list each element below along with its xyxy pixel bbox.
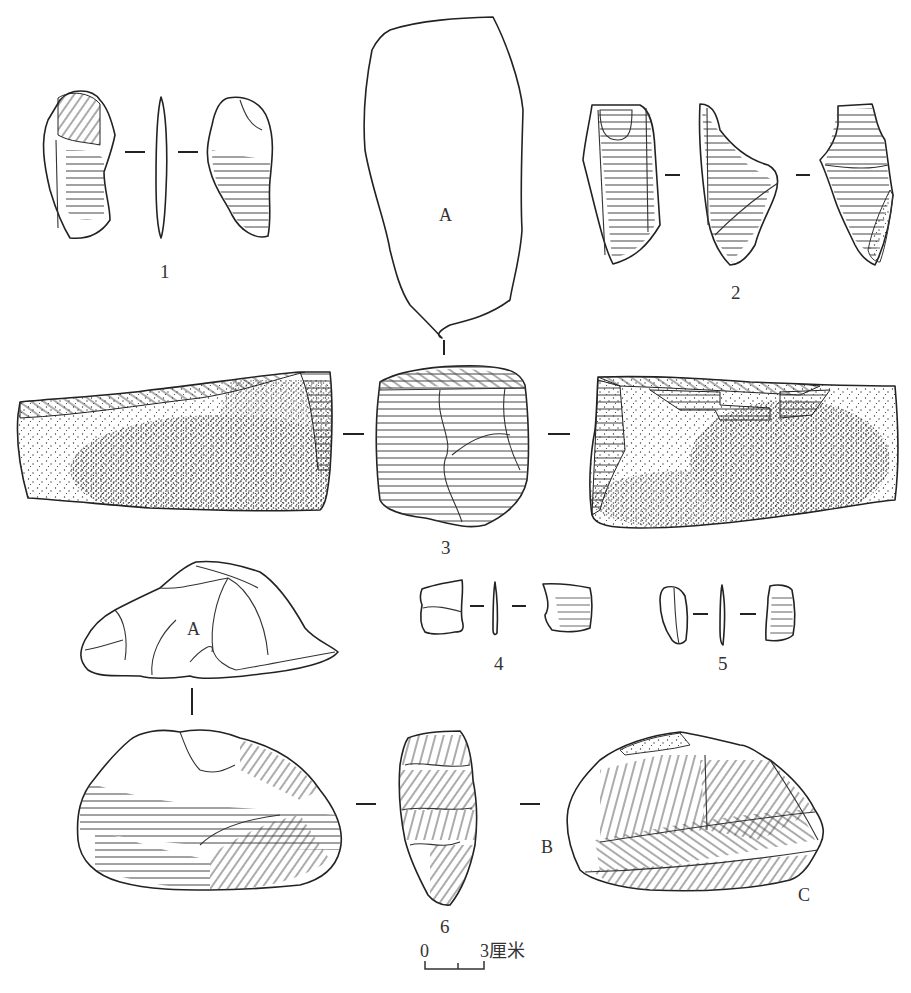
artifact-label-6: 6 [440, 917, 450, 936]
scale-bar [425, 961, 484, 969]
artifact-label-4: 4 [494, 654, 504, 673]
face-label-a-artifact-3: A [439, 206, 452, 224]
artifact-4 [421, 580, 592, 634]
face-label-a-artifact-6: A [187, 620, 200, 638]
scale-bar-start-label: 0 [420, 942, 429, 960]
artifact-3 [17, 365, 903, 537]
artifact-label-1: 1 [160, 262, 170, 281]
artifact-label-5: 5 [718, 654, 728, 673]
artifact-5-view-1 [660, 587, 687, 644]
face-label-b-artifact-6: B [541, 838, 553, 856]
artifact-plate [0, 0, 911, 993]
artifact-label-3: 3 [441, 538, 451, 557]
artifact-5 [660, 585, 795, 645]
artifact-6-platform-view [81, 562, 338, 715]
artifact-5-profile [720, 585, 724, 645]
scale-bar-end-label: 3厘米 [480, 942, 525, 960]
artifact-6 [78, 730, 824, 905]
artifact-4-profile [493, 582, 497, 634]
artifact-1 [44, 91, 273, 238]
face-label-c-artifact-6: C [798, 886, 810, 904]
artifact-1-profile-view [156, 97, 167, 238]
artifact-3-platform-view [364, 17, 523, 355]
artifact-2 [583, 104, 893, 265]
artifact-label-2: 2 [731, 283, 741, 302]
